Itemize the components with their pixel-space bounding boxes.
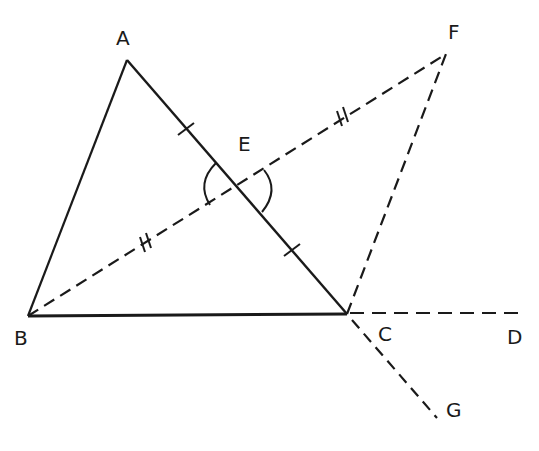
point-label-B: B (14, 328, 28, 348)
point-label-E: E (238, 134, 251, 154)
geometry-figure (0, 0, 539, 451)
angle-arc-FEC (262, 170, 272, 212)
segment-BC (28, 314, 347, 316)
segment-BF (28, 54, 446, 316)
point-label-C: C (378, 324, 392, 344)
point-label-F: F (448, 22, 460, 42)
segment-AB (28, 60, 127, 316)
point-label-A: A (116, 28, 130, 48)
point-label-D: D (507, 327, 522, 347)
double-tick-EF (337, 107, 348, 126)
segment-CG (352, 320, 437, 418)
segment-AC (127, 60, 347, 314)
point-label-G: G (446, 400, 462, 420)
segment-CF (347, 54, 446, 314)
